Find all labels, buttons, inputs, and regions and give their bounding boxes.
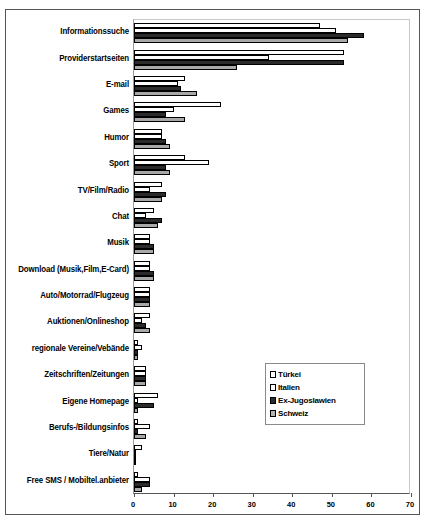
x-axis-tick-label: 70 [406,500,414,509]
bar-3 [134,487,142,492]
legend-label: Schweiz [278,409,308,418]
x-axis-tick [213,493,214,497]
bar-3 [134,302,150,307]
x-axis-tick-label: 0 [131,500,135,509]
x-axis-tick [253,493,254,497]
category-label: Informationssuche [13,27,129,36]
bar-3 [134,144,170,149]
bar-3 [134,223,158,228]
legend-label: Ex-Jugoslawien [278,396,336,405]
category-label: Chat [13,212,129,221]
x-axis-tick [174,493,175,497]
x-axis-tick-label: 60 [366,500,374,509]
category-label: Berufs-/Bildungsinfos [13,423,129,432]
x-axis-tick [411,493,412,497]
legend-item[interactable]: Italien [270,381,360,393]
x-axis-tick-label: 20 [208,500,216,509]
bar-3 [134,170,170,175]
category-label: Free SMS / Mobiltel.anbieter [13,476,129,485]
x-axis-tick [371,493,372,497]
category-label: Games [13,106,129,115]
bar-3 [134,197,162,202]
bar-3 [134,117,185,122]
bar-3 [134,276,154,281]
bar-3 [134,328,150,333]
bar-3 [134,38,348,43]
legend-item[interactable]: Schweiz [270,407,360,419]
bar-3 [134,355,138,360]
category-axis-labels: InformationssucheProviderstartseitenE-ma… [8,19,131,494]
chart-figure: InformationssucheProviderstartseitenE-ma… [0,0,426,526]
x-axis-tick [134,493,135,497]
x-axis-tick [292,493,293,497]
category-label: Providerstartseiten [13,54,129,63]
category-label: Humor [13,133,129,142]
legend-label: Türkei [278,370,301,379]
category-label: Auktionen/Onlineshop [13,317,129,326]
x-axis-tick-label: 10 [168,500,176,509]
category-label: Musik [13,238,129,247]
legend-swatch-icon [270,410,276,417]
bar-3 [134,65,237,70]
bar-3 [134,408,138,413]
category-label: Sport [13,159,129,168]
category-label: Tiere/Natur [13,449,129,458]
category-label: Auto/Motorrad/Flugzeug [13,291,129,300]
legend-label: Italien [278,383,300,392]
category-label: TV/Film/Radio [13,186,129,195]
bar-3 [134,91,197,96]
category-label: Eigene Homepage [13,397,129,406]
x-axis-tick-label: 50 [327,500,335,509]
category-label: Zeitschriften/Zeitungen [13,370,129,379]
bar-3 [134,249,154,254]
chart-legend: TürkeiItalienEx-JugoslawienSchweiz [265,363,365,425]
legend-swatch-icon [270,384,276,391]
legend-item[interactable]: Ex-Jugoslawien [270,394,360,406]
x-axis-tick-label: 30 [248,500,256,509]
bar-3 [134,434,146,439]
legend-swatch-icon [270,397,276,404]
category-label: regionale Vereine/Vebände [13,344,129,353]
x-axis-tick-label: 40 [287,500,295,509]
x-axis-tick [332,493,333,497]
category-label: E-mail [13,80,129,89]
category-label: Download (Musik,Film,E-Card) [13,265,129,274]
bar-3 [134,381,146,386]
legend-item[interactable]: Türkei [270,368,360,380]
bar-3 [134,460,136,465]
legend-swatch-icon [270,371,276,378]
